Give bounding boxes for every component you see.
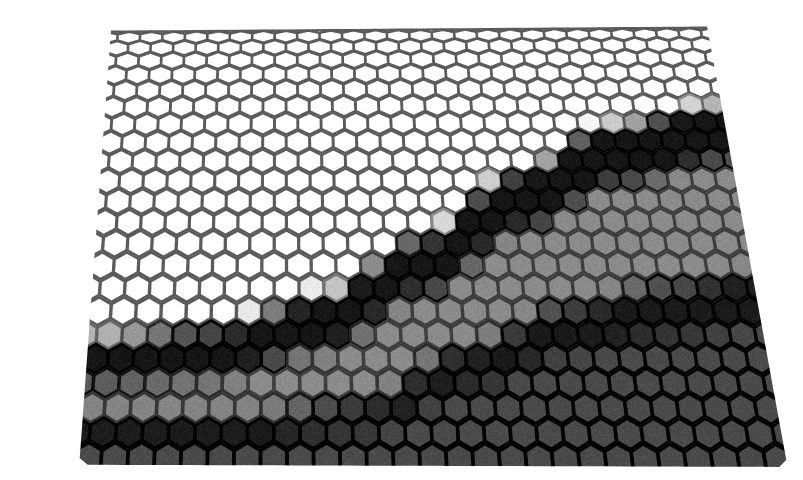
figure-root: Graphene honeycomb lattice sheet with a … — [0, 0, 803, 480]
graphene-lattice-illustration — [0, 0, 803, 480]
